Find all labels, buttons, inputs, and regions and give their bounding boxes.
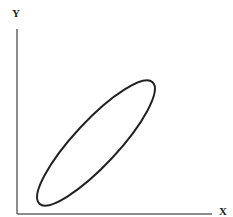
correlation-ellipse [23, 67, 168, 217]
x-axis-label: X [219, 205, 227, 217]
y-axis-label: Y [12, 7, 20, 19]
diagram-canvas [0, 0, 233, 217]
